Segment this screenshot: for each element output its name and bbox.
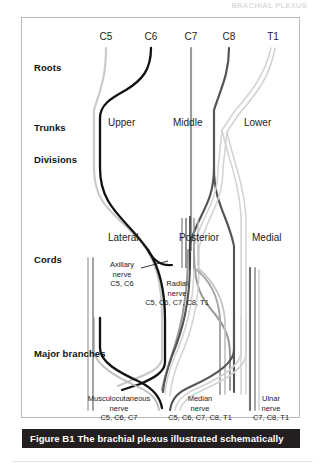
row-label-cords: Cords [34, 254, 62, 265]
median-nerve-roots: C5, C6, C7, C8, T1 [168, 413, 232, 423]
nerve-path-c5 [94, 48, 162, 386]
root-label-c5: C5 [100, 31, 113, 42]
musculocutaneous-nerve-roots: C5, C6, C7 [88, 413, 151, 423]
trunk-label-lower: Lower [244, 117, 271, 128]
trunk-label-middle: Middle [173, 117, 202, 128]
figure-caption-bar: Figure B1 The brachial plexus illustrate… [22, 429, 300, 448]
nerve-callout-axillary: Axillary nerve C5, C6 [110, 260, 134, 289]
musculocutaneous-nerve-name: Musculocutaneous [88, 394, 151, 404]
figure-caption-id: Figure B1 [30, 433, 75, 444]
row-label-divisions: Divisions [34, 154, 77, 165]
branch-label-ulnar: Ulnar nerve C7, C8, T1 [253, 394, 289, 423]
branch-label-musculocutaneous: Musculocutaneous nerve C5, C6, C7 [88, 394, 151, 423]
ulnar-nerve-name: Ulnar [253, 394, 289, 404]
radial-nerve-name: Radial [145, 279, 209, 289]
axillary-nerve-name: Axillary [110, 260, 134, 270]
median-nerve-word: nerve [168, 404, 232, 414]
median-nerve-name: Median [168, 394, 232, 404]
musculocutaneous-nerve-word: nerve [88, 404, 151, 414]
running-head: BRACHIAL PLEXUS [181, 1, 307, 8]
ulnar-nerve-roots: C7, C8, T1 [253, 413, 289, 423]
branch-label-median: Median nerve C5, C6, C7, C8, T1 [168, 394, 232, 423]
root-label-c8: C8 [223, 31, 236, 42]
radial-nerve-roots: C5, C6, C7, C8, T1 [145, 298, 209, 308]
cord-label-lateral: Lateral [108, 232, 139, 243]
ulnar-nerve-word: nerve [253, 404, 289, 414]
cord-label-medial: Medial [252, 232, 281, 243]
radial-nerve-word: nerve [145, 289, 209, 299]
nerve-path-ulnar [250, 268, 259, 410]
axillary-nerve-roots: C5, C6 [110, 279, 134, 289]
row-label-trunks: Trunks [34, 122, 66, 133]
figure-caption: Figure B1 The brachial plexus illustrate… [22, 433, 284, 444]
figure-panel: Roots Trunks Divisions Cords Major branc… [21, 17, 300, 418]
root-label-c6: C6 [145, 31, 158, 42]
posterior-cord-bundle [182, 216, 198, 270]
row-label-major-branches: Major branches [34, 348, 106, 359]
root-label-c7: C7 [185, 31, 198, 42]
cord-label-posterior: Posterior [179, 232, 219, 243]
nerve-callout-radial: Radial nerve C5, C6, C7, C8, T1 [145, 279, 209, 308]
figure-caption-text: The brachial plexus illustrated schemati… [77, 433, 283, 444]
nerve-path-musculocutaneous [88, 258, 93, 410]
page-divider-rule [12, 461, 313, 462]
root-label-t1: T1 [267, 31, 279, 42]
axillary-nerve-word: nerve [110, 270, 134, 280]
trunk-label-upper: Upper [108, 117, 135, 128]
row-label-roots: Roots [34, 62, 61, 73]
